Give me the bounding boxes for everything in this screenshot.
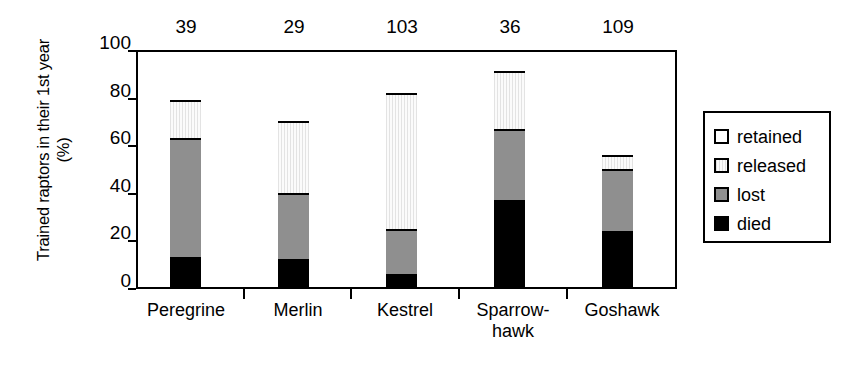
segment-kestrel-died[interactable] — [386, 274, 417, 288]
segment-kestrel-retained[interactable] — [386, 50, 417, 93]
plot-area: 39 29 103 36 — [136, 50, 677, 289]
segment-merlin-died[interactable] — [278, 259, 309, 288]
y-tick-mark-20 — [128, 240, 136, 242]
x-tick-mark-3 — [458, 289, 460, 299]
segment-goshawk-lost[interactable] — [602, 169, 633, 231]
y-axis-title-container: Trained raptors in their 1st year (%) — [6, 20, 102, 300]
bar-sample-size-peregrine: 39 — [156, 17, 216, 36]
segment-goshawk-retained[interactable] — [602, 50, 633, 155]
y-tick-label-100: 100 — [99, 33, 131, 52]
segment-peregrine-lost[interactable] — [170, 138, 201, 257]
legend: retained released lost died — [703, 111, 831, 243]
bar-goshawk[interactable]: 109 — [602, 50, 633, 288]
y-axis-tick-labels: 100 80 60 40 20 0 — [96, 38, 136, 302]
x-tick-mark-1 — [243, 289, 245, 299]
segment-merlin-retained[interactable] — [278, 50, 309, 121]
legend-item-lost[interactable]: lost — [714, 180, 829, 209]
bar-kestrel[interactable]: 103 — [386, 50, 417, 288]
segment-goshawk-died[interactable] — [602, 231, 633, 288]
axis-line-right — [675, 50, 677, 289]
legend-swatch-died-icon — [714, 216, 729, 231]
legend-label-retained: retained — [737, 128, 802, 146]
segment-sparrowhawk-retained[interactable] — [494, 50, 525, 71]
y-axis-title: Trained raptors in their 1st year (%) — [33, 25, 73, 275]
segment-goshawk-released[interactable] — [602, 155, 633, 169]
segment-peregrine-released[interactable] — [170, 100, 201, 138]
legend-swatch-lost-icon — [714, 187, 729, 202]
bar-sample-size-kestrel: 103 — [372, 17, 432, 36]
legend-label-released: released — [737, 157, 806, 175]
segment-merlin-lost[interactable] — [278, 193, 309, 260]
y-tick-mark-60 — [128, 145, 136, 147]
bar-peregrine[interactable]: 39 — [170, 50, 201, 288]
x-category-label-peregrine: Peregrine — [121, 300, 251, 321]
x-category-label-peregrine-line1: Peregrine — [121, 300, 251, 321]
segment-sparrowhawk-lost[interactable] — [494, 129, 525, 200]
y-tick-mark-0 — [128, 288, 136, 290]
segment-kestrel-released[interactable] — [386, 93, 417, 229]
legend-label-died: died — [737, 215, 771, 233]
x-category-label-goshawk: Goshawk — [557, 300, 687, 321]
x-tick-mark-4 — [566, 289, 568, 299]
axis-line-left — [136, 50, 138, 289]
legend-swatch-released-icon — [714, 158, 729, 173]
legend-item-released[interactable]: released — [714, 151, 829, 180]
segment-sparrowhawk-released[interactable] — [494, 71, 525, 128]
segment-peregrine-retained[interactable] — [170, 50, 201, 100]
segment-sparrowhawk-died[interactable] — [494, 200, 525, 288]
x-tick-mark-2 — [350, 289, 352, 299]
legend-swatch-retained-icon — [714, 129, 729, 144]
bar-sample-size-sparrowhawk: 36 — [480, 17, 540, 36]
segment-peregrine-died[interactable] — [170, 257, 201, 288]
x-category-label-goshawk-line1: Goshawk — [557, 300, 687, 321]
bar-sample-size-merlin: 29 — [264, 17, 324, 36]
figure-root: Trained raptors in their 1st year (%) 10… — [0, 0, 861, 375]
legend-label-lost: lost — [737, 186, 765, 204]
legend-item-retained[interactable]: retained — [714, 122, 829, 151]
y-tick-mark-40 — [128, 193, 136, 195]
bar-sparrowhawk[interactable]: 36 — [494, 50, 525, 288]
legend-item-died[interactable]: died — [714, 209, 829, 238]
x-category-label-sparrowhawk-line2: hawk — [448, 321, 578, 342]
segment-merlin-released[interactable] — [278, 121, 309, 192]
segment-kestrel-lost[interactable] — [386, 229, 417, 274]
y-tick-mark-100 — [128, 50, 136, 52]
bar-merlin[interactable]: 29 — [278, 50, 309, 288]
bar-sample-size-goshawk: 109 — [588, 17, 648, 36]
y-tick-mark-80 — [128, 98, 136, 100]
